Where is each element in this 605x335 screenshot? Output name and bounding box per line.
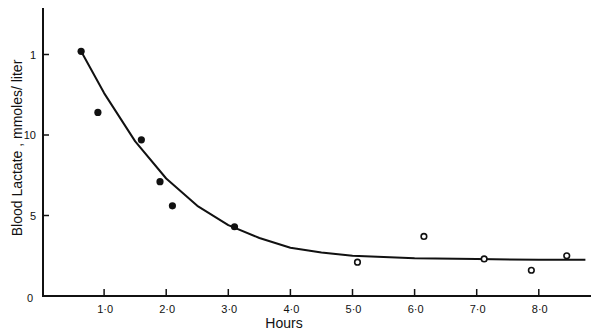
- y-tick-label: 0: [27, 292, 33, 304]
- x-tick-label: 4·0: [283, 303, 299, 315]
- open-data-point: [421, 234, 427, 240]
- x-tick-label: 3·0: [221, 303, 237, 315]
- y-tick-label: 1: [30, 49, 36, 61]
- y-tick-label: 5: [30, 210, 36, 222]
- fitted-curve: [81, 51, 585, 259]
- open-data-point: [481, 256, 487, 262]
- x-tick-label: 2·0: [159, 303, 175, 315]
- x-tick-label: 6·0: [408, 303, 424, 315]
- y-tick-label: 10: [24, 129, 36, 141]
- axes: [42, 8, 591, 297]
- filled-data-point: [138, 136, 145, 143]
- x-tick-label: 7·0: [470, 303, 486, 315]
- filled-data-point: [156, 178, 163, 185]
- x-tick-label: 5·0: [346, 303, 362, 315]
- x-ticks: 1·02·03·04·05·06·07·08·0: [97, 289, 548, 315]
- x-tick-label: 8·0: [532, 303, 548, 315]
- open-data-point: [355, 259, 361, 265]
- filled-data-point: [231, 223, 238, 230]
- x-tick-label: 1·0: [97, 303, 113, 315]
- lactate-chart: 05101 1·02·03·04·05·06·07·08·0 Hours Blo…: [0, 0, 605, 335]
- y-ticks: 05101: [24, 49, 49, 305]
- open-data-point: [564, 253, 570, 259]
- open-data-point: [529, 267, 535, 273]
- filled-data-point: [94, 109, 101, 116]
- x-axis-title: Hours: [265, 315, 302, 331]
- filled-data-point: [78, 48, 85, 55]
- filled-data-point: [169, 202, 176, 209]
- y-axis-title: Blood Lactate , mmoles/ liter: [9, 59, 25, 236]
